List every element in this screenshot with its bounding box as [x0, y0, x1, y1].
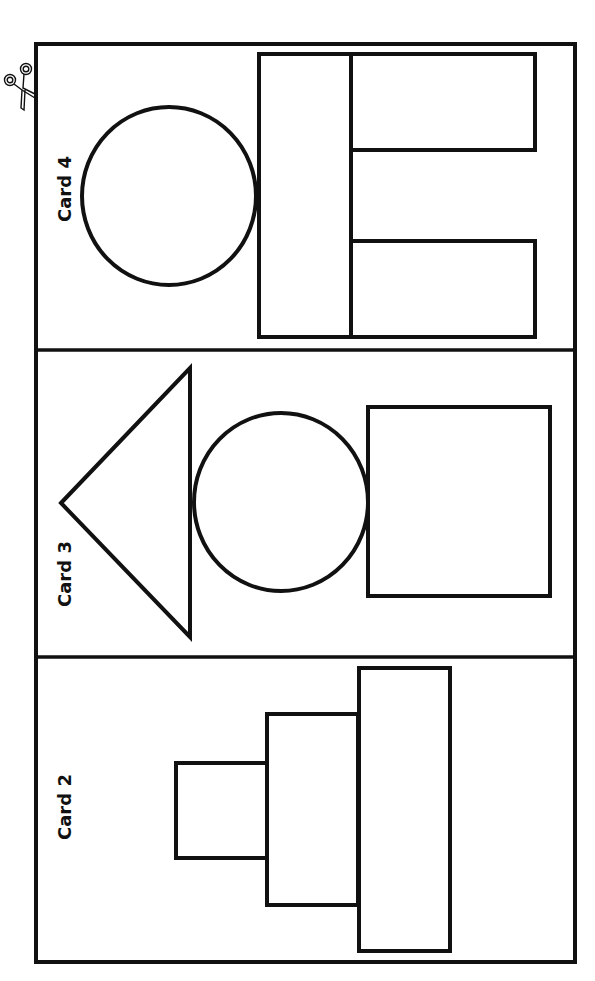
worksheet-page: Card 4 Card 3 Card 2	[0, 0, 595, 981]
card-4-shapes	[82, 54, 535, 337]
outer-card-frame	[36, 44, 575, 962]
upper-leg-rect	[351, 54, 535, 150]
card-sheet-drawing	[0, 0, 595, 981]
lower-leg-rect	[351, 241, 535, 337]
head-circle	[82, 107, 256, 285]
large-rect	[359, 668, 450, 951]
card-4-label: Card 4	[54, 156, 75, 222]
hat-triangle	[61, 368, 190, 637]
body-rect	[259, 54, 351, 337]
card-3-shapes	[61, 368, 550, 637]
card-2-label: Card 2	[54, 774, 75, 840]
card-2-shapes	[176, 668, 450, 951]
body-square	[368, 407, 550, 596]
medium-rect	[267, 714, 358, 905]
head-circle	[194, 413, 368, 591]
small-rect	[176, 763, 267, 858]
card-3-label: Card 3	[54, 541, 75, 607]
